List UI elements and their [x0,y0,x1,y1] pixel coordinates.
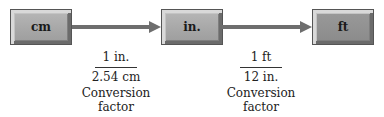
conversion-fraction-2: 1 ft 12 in. [231,50,291,85]
node-cm-label: cm [31,20,51,34]
caption-line-2: factor [76,100,156,114]
node-cm: cm [10,9,72,45]
fraction-numerator: 1 in. [86,50,146,67]
caption-line-2: factor [221,100,301,114]
caption-line-1: Conversion [221,86,301,100]
node-in-label: in. [183,20,200,34]
node-ft-label: ft [338,20,349,34]
caption-line-1: Conversion [76,86,156,100]
conversion-caption-1: Conversion factor [76,86,156,114]
node-in: in. [161,9,223,45]
fraction-denominator: 2.54 cm [86,68,146,85]
conversion-fraction-1: 1 in. 2.54 cm [86,50,146,85]
node-ft: ft [312,9,374,45]
fraction-denominator: 12 in. [231,68,291,85]
arrowhead-icon [149,21,161,33]
fraction-numerator: 1 ft [231,50,291,67]
arrowhead-icon [300,21,312,33]
conversion-caption-2: Conversion factor [221,86,301,114]
